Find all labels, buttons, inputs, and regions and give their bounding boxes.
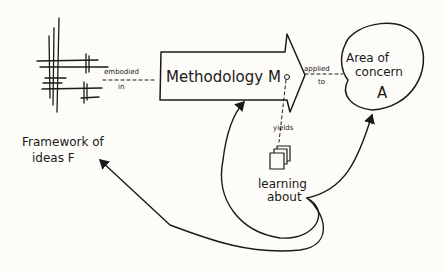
applied-to-label: to — [318, 78, 325, 86]
learning-to-methodology-arrow — [222, 102, 319, 238]
learning-to-area-arrow — [307, 115, 372, 198]
learning-label-line1: learning — [258, 177, 307, 191]
area-label-line3: A — [377, 84, 388, 102]
area-label-line2: concern — [355, 65, 403, 79]
methodology-label: Methodology M — [166, 68, 281, 86]
area-label-line1: Area of — [346, 51, 390, 65]
framework-label-line2: ideas F — [32, 151, 75, 165]
yields-connector — [279, 80, 286, 142]
learning-label-line2: about — [267, 190, 302, 204]
yields-label: yields — [273, 124, 294, 132]
framework-label-line1: Framework of — [22, 135, 105, 149]
embodied-in-label: in — [118, 83, 124, 91]
applied-label: applied — [304, 65, 330, 73]
framework-grid-icon — [37, 18, 108, 112]
methodology-diagram: embodied in Framework of ideas F Methodo… — [0, 0, 443, 273]
document-stack-icon — [270, 146, 290, 169]
embodied-label: embodied — [104, 68, 139, 76]
